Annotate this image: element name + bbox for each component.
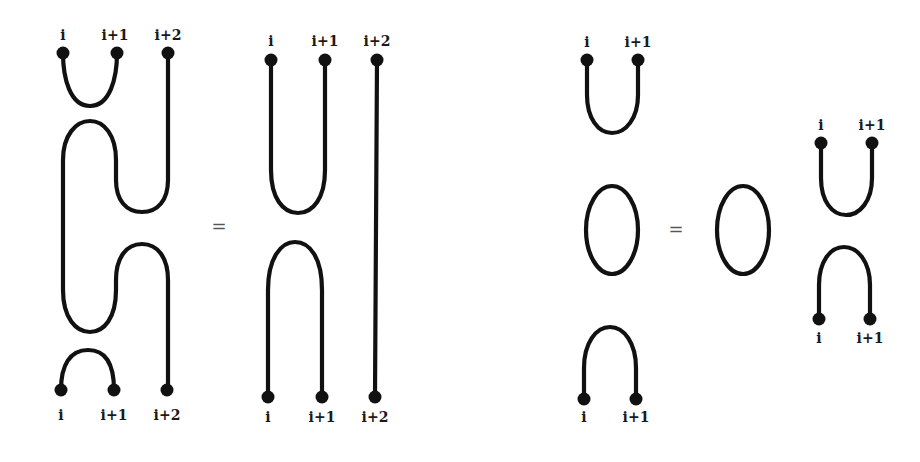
label-top-i: i [60, 27, 65, 43]
label-top-i: i [818, 117, 823, 133]
node-bottom-i-plus-1 [316, 391, 329, 404]
label-bottom-i-plus-1: i+1 [101, 407, 128, 423]
node-top-i-plus-2 [371, 54, 384, 67]
cup-strand [271, 60, 325, 213]
label-bottom-i: i [816, 330, 821, 346]
node-bottom-i [578, 393, 591, 406]
label-bottom-i-plus-1: i+1 [309, 409, 336, 425]
relation-2-rhs: i i+1 i i+1 [717, 117, 885, 346]
label-bottom-i-plus-2: i+2 [362, 409, 389, 425]
node-top-i [815, 137, 828, 150]
label-bottom-i-plus-1: i+1 [623, 409, 650, 425]
node-bottom-i-plus-1 [864, 313, 877, 326]
equals-sign: = [668, 219, 683, 240]
closed-loop [717, 186, 769, 274]
node-top-i-plus-1 [111, 47, 124, 60]
node-top-i [265, 54, 278, 67]
cup-strand [587, 60, 638, 133]
label-top-i: i [584, 34, 589, 50]
node-top-i-plus-1 [319, 54, 332, 67]
label-bottom-i-plus-2: i+2 [154, 407, 181, 423]
node-bottom-i [262, 391, 275, 404]
equals-sign: = [211, 216, 226, 237]
node-bottom-i [813, 313, 826, 326]
cap-strand [61, 350, 114, 390]
label-bottom-i: i [581, 409, 586, 425]
relation-1-rhs: i i+1 i+2 i i+1 i+2 [262, 33, 391, 425]
cap-strand [268, 242, 322, 397]
label-top-i-plus-1: i+1 [312, 33, 339, 49]
diagram-canvas: i i+1 i+2 i i+1 i+2 = i i+1 i+2 i i+ [0, 0, 920, 462]
node-bottom-i-plus-2 [161, 384, 174, 397]
through-strand [375, 60, 377, 397]
cap-strand [584, 327, 636, 399]
label-top-i-plus-2: i+2 [155, 27, 182, 43]
label-bottom-i: i [58, 407, 63, 423]
node-bottom-i [55, 384, 68, 397]
node-bottom-i-plus-1 [108, 384, 121, 397]
label-bottom-i-plus-1: i+1 [857, 330, 884, 346]
node-bottom-i-plus-1 [630, 393, 643, 406]
node-top-i [581, 54, 594, 67]
closed-loop [586, 186, 638, 274]
label-top-i-plus-1: i+1 [102, 27, 129, 43]
relation-2-lhs: i i+1 i i+1 [578, 34, 652, 425]
label-top-i-plus-1: i+1 [625, 34, 652, 50]
label-top-i: i [268, 33, 273, 49]
cup-strand [63, 53, 117, 106]
node-top-i-plus-1 [866, 137, 879, 150]
node-bottom-i-plus-2 [369, 391, 382, 404]
node-top-i [57, 47, 70, 60]
label-top-i-plus-2: i+2 [364, 33, 391, 49]
relation-1-lhs: i i+1 i+2 i i+1 i+2 [55, 27, 182, 423]
cup-strand [821, 143, 872, 215]
node-top-i-plus-1 [632, 54, 645, 67]
cap-strand [819, 247, 870, 319]
label-top-i-plus-1: i+1 [859, 117, 886, 133]
node-top-i-plus-2 [162, 47, 175, 60]
label-bottom-i: i [265, 409, 270, 425]
